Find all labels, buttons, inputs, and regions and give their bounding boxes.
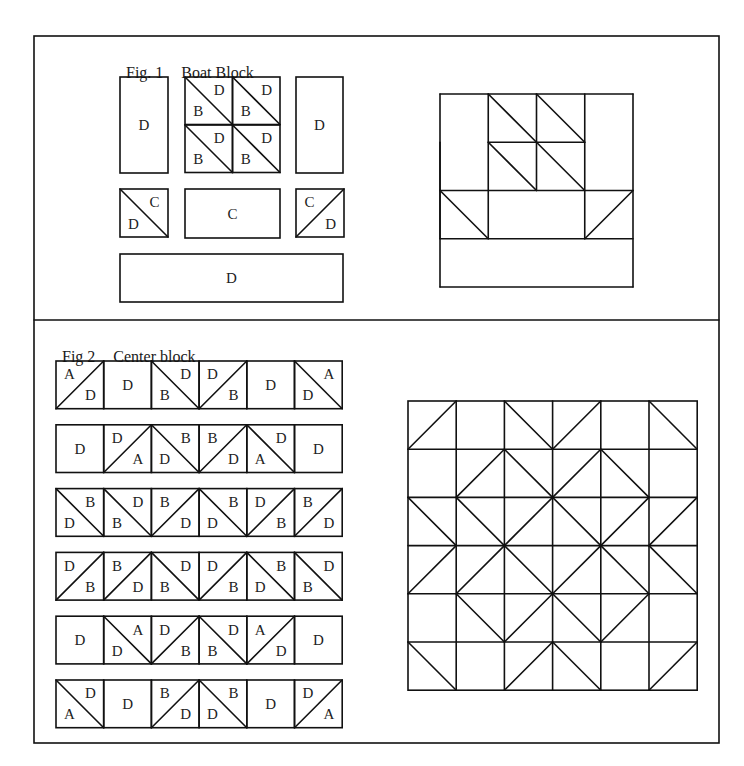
block-diagonal [553, 594, 601, 642]
fabric-label: B [276, 515, 286, 531]
plain-square: D [295, 425, 343, 473]
block-diagonal [553, 401, 601, 449]
fabric-label: D [313, 441, 324, 457]
fabric-label: D [276, 643, 287, 659]
fabric-label: D [128, 216, 139, 232]
half-square-triangle: DA [104, 425, 152, 473]
block-seam [488, 142, 536, 190]
fabric-label: B [85, 494, 95, 510]
block-diagonal [649, 642, 697, 690]
rect-piece: C [185, 189, 280, 238]
block-diagonal [601, 497, 649, 545]
fabric-label: D [180, 558, 191, 574]
diagonal-seam [104, 552, 152, 600]
diagonal-seam [185, 125, 233, 173]
half-square-triangle: DB [185, 125, 233, 173]
block-diagonal [649, 497, 697, 545]
fabric-label: B [228, 387, 238, 403]
fabric-label: B [193, 103, 203, 119]
fabric-label: B [207, 430, 217, 446]
fabric-label: D [207, 366, 218, 382]
half-square-triangle: DB [199, 616, 247, 664]
half-square-triangle: BD [151, 680, 199, 728]
half-square-triangle: DB [233, 125, 281, 173]
block-diagonal [553, 449, 601, 497]
half-square-triangle: BD [247, 552, 295, 600]
rect-piece: D [296, 77, 343, 173]
diagonal-seam [151, 552, 199, 600]
half-square-triangle: DB [151, 616, 199, 664]
plain-square: D [104, 361, 152, 409]
block-diagonal [601, 594, 649, 642]
half-square-triangle: BD [295, 489, 343, 537]
diagonal-seam [199, 616, 247, 664]
block-seam [585, 191, 633, 239]
piece-row-3: BDDBBDBDDBBD [56, 489, 342, 537]
diagonal-seam [233, 125, 281, 173]
half-square-triangle: BD [56, 489, 104, 537]
fabric-label: B [241, 151, 251, 167]
half-square-triangle: BD [199, 680, 247, 728]
piece-row-1: ADDDBDBDAD [56, 361, 342, 409]
block-seam [488, 94, 536, 142]
fabric-label: D [313, 632, 324, 648]
fabric-label: B [85, 579, 95, 595]
fabric-label: D [261, 130, 272, 146]
fabric-label: B [276, 558, 286, 574]
fabric-label: D [323, 558, 334, 574]
fabric-label: B [160, 685, 170, 701]
fabric-label: B [160, 387, 170, 403]
fabric-label: D [122, 377, 133, 393]
fabric-label: A [255, 451, 266, 467]
fabric-label: D [228, 451, 239, 467]
half-square-triangle: DB [104, 489, 152, 537]
block-seam [537, 142, 585, 190]
block-diagonal [504, 497, 552, 545]
block-diagonal [504, 401, 552, 449]
half-square-triangle: BD [199, 489, 247, 537]
fabric-label: B [112, 558, 122, 574]
block-diagonal [504, 594, 552, 642]
block-diagonal [408, 546, 456, 594]
diagonal-seam [296, 189, 344, 237]
block-diagonal [456, 546, 504, 594]
fig1-assembled-boat-block [440, 94, 633, 287]
quilt-diagram-canvas: DDBDBDBDBDCDCCDD ADDDBDBDADDDABDBDDADBDD… [0, 0, 744, 766]
half-square-triangle: DB [247, 489, 295, 537]
plain-square: D [56, 425, 104, 473]
fig1-cut-pieces: DDBDBDBDBDCDCCDD [120, 77, 344, 302]
block-diagonal [553, 642, 601, 690]
fabric-label: D [314, 117, 325, 133]
half-square-triangle: BD [104, 552, 152, 600]
block-diagonal [456, 497, 504, 545]
fabric-label: A [323, 366, 334, 382]
fabric-label: A [133, 622, 144, 638]
half-square-triangle: CD [120, 189, 168, 237]
fabric-label: D [85, 685, 96, 701]
half-square-triangle: DA [295, 680, 343, 728]
block-diagonal [408, 497, 456, 545]
diagonal-seam [295, 489, 343, 537]
fabric-label: B [181, 430, 191, 446]
piece-row-5: DADDBDBADD [56, 616, 342, 664]
plain-square: D [247, 361, 295, 409]
fabric-label: B [112, 515, 122, 531]
fabric-label: D [64, 558, 75, 574]
fabric-label: D [159, 622, 170, 638]
fig2-assembled-center-block [408, 401, 697, 690]
fabric-label: A [64, 706, 75, 722]
diagonal-seam [104, 489, 152, 537]
fabric-label: D [226, 270, 237, 286]
half-square-triangle: AD [104, 616, 152, 664]
fabric-label: A [323, 706, 334, 722]
block-seam [537, 94, 585, 142]
block-diagonal [504, 642, 552, 690]
fabric-label: D [214, 130, 225, 146]
fabric-label: D [74, 632, 85, 648]
fabric-label: B [181, 643, 191, 659]
fabric-label: D [214, 82, 225, 98]
fabric-label: A [133, 451, 144, 467]
fabric-label: D [112, 430, 123, 446]
fabric-label: C [150, 194, 160, 210]
diagonal-seam [185, 77, 233, 125]
